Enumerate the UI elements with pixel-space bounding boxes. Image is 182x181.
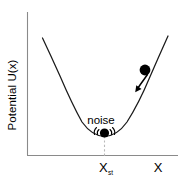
rolling-ball — [140, 65, 151, 76]
noise-label: noise — [87, 114, 115, 126]
noise-arc-right-inner — [110, 130, 112, 135]
noise-arc-left-inner — [97, 130, 99, 135]
minimum-tick-label: X — [99, 160, 108, 175]
y-axis-label: Potential U(x) — [6, 59, 18, 130]
x-axis-label: X — [154, 160, 163, 175]
potential-well-diagram: Potential U(x) noise X st X — [0, 0, 182, 181]
diagram-canvas: Potential U(x) noise X st X — [0, 0, 182, 181]
minimum-tick-subscript: st — [108, 169, 113, 176]
noise-arc-left-outer — [94, 128, 96, 135]
noise-ball — [100, 128, 109, 137]
noise-arc-right-outer — [113, 128, 115, 135]
